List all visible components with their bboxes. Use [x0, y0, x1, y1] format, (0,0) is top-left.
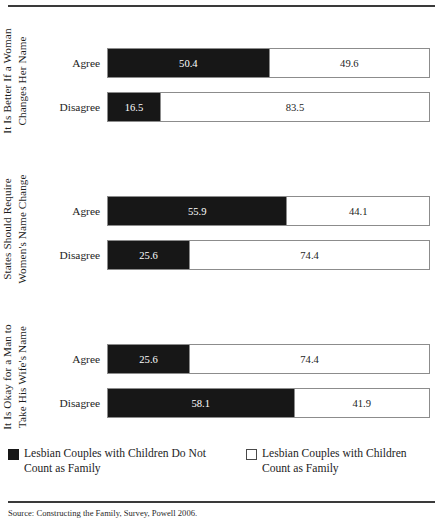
row-label-disagree: Disagree	[60, 240, 107, 270]
bar-segment-light[interactable]: 49.6	[270, 49, 429, 77]
legend-label-line2: Count as Family	[262, 462, 407, 477]
row-label-agree: Agree	[72, 196, 107, 226]
bar-track: 25.6 74.4	[107, 240, 430, 270]
legend-swatch-dark-icon	[8, 449, 19, 460]
bar-segment-dark[interactable]: 16.5	[108, 93, 161, 121]
group-label-line1: States Should Require	[0, 154, 15, 304]
group-label-line2: Take His Wife's Name	[15, 302, 30, 452]
legend-label: Lesbian Couples with Children Count as F…	[262, 447, 407, 476]
legend-label-line1: Lesbian Couples with Children Do Not	[24, 447, 206, 462]
row-label-agree: Agree	[72, 48, 107, 78]
figure-container: It Is Better If a Woman Changes Her Name…	[0, 0, 443, 519]
bar-segment-light[interactable]: 41.9	[295, 389, 429, 417]
bar-track: 58.1 41.9	[107, 388, 430, 418]
legend-item-do-not-count[interactable]: Lesbian Couples with Children Do Not Cou…	[8, 447, 246, 476]
bar-track: 55.9 44.1	[107, 196, 430, 226]
group-label-states-require: States Should Require Women's Name Chang…	[0, 154, 34, 304]
legend-label: Lesbian Couples with Children Do Not Cou…	[24, 447, 206, 476]
top-rule	[8, 5, 435, 7]
legend-item-count-as-family[interactable]: Lesbian Couples with Children Count as F…	[246, 447, 435, 476]
group-label-line2: Changes Her Name	[15, 6, 30, 156]
bar-segment-dark[interactable]: 55.9	[108, 197, 287, 225]
bar-segment-dark[interactable]: 58.1	[108, 389, 295, 417]
row-label-disagree: Disagree	[60, 388, 107, 418]
legend-swatch-light-icon	[246, 449, 257, 460]
bar-segment-light[interactable]: 74.4	[190, 345, 429, 373]
bar-row[interactable]: Agree 25.6 74.4	[107, 344, 430, 374]
bar-track: 16.5 83.5	[107, 92, 430, 122]
bar-segment-light[interactable]: 83.5	[161, 93, 429, 121]
bar-segment-light[interactable]: 74.4	[190, 241, 429, 269]
bar-row[interactable]: Disagree 25.6 74.4	[107, 240, 430, 270]
bar-segment-dark[interactable]: 50.4	[108, 49, 270, 77]
bar-segment-dark[interactable]: 25.6	[108, 241, 190, 269]
legend: Lesbian Couples with Children Do Not Cou…	[8, 447, 435, 476]
bottom-rule	[8, 501, 435, 503]
bar-track: 50.4 49.6	[107, 48, 430, 78]
bar-row[interactable]: Agree 55.9 44.1	[107, 196, 430, 226]
row-label-disagree: Disagree	[60, 92, 107, 122]
group-label-name-change-woman: It Is Better If a Woman Changes Her Name	[0, 6, 34, 156]
bar-segment-light[interactable]: 44.1	[287, 197, 429, 225]
bar-row[interactable]: Disagree 16.5 83.5	[107, 92, 430, 122]
legend-label-line2: Count as Family	[24, 462, 206, 477]
group-label-line1: It Is Better If a Woman	[0, 6, 15, 156]
group-label-line2: Women's Name Change	[15, 154, 30, 304]
bar-row[interactable]: Agree 50.4 49.6	[107, 48, 430, 78]
group-label-man-take-wife-name: It Is Okay for a Man to Take His Wife's …	[0, 302, 34, 452]
bar-row[interactable]: Disagree 58.1 41.9	[107, 388, 430, 418]
source-note: Source: Constructing the Family, Survey,…	[8, 508, 197, 518]
row-label-agree: Agree	[72, 344, 107, 374]
bar-track: 25.6 74.4	[107, 344, 430, 374]
bar-segment-dark[interactable]: 25.6	[108, 345, 190, 373]
legend-label-line1: Lesbian Couples with Children	[262, 447, 407, 462]
group-label-line1: It Is Okay for a Man to	[0, 302, 15, 452]
